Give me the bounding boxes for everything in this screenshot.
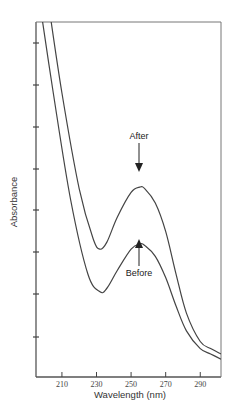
after-label: After (129, 131, 148, 141)
before-annotation: Before (126, 239, 153, 278)
after-curve (48, 1, 221, 354)
x-tick-label: 290 (194, 380, 206, 389)
x-tick-label: 230 (91, 380, 103, 389)
arrow-down-icon (135, 163, 143, 172)
plot-frame (36, 22, 221, 377)
x-tick-label: 270 (160, 380, 172, 389)
x-axis-ticks: 210230250270290 (56, 372, 206, 389)
x-tick-label: 210 (56, 380, 68, 389)
before-label: Before (126, 268, 153, 278)
x-tick-label: 250 (125, 380, 137, 389)
after-annotation: After (129, 131, 148, 172)
y-axis-label: Absorbance (8, 177, 19, 228)
before-curve (39, 1, 221, 360)
absorbance-spectrum-chart: 210230250270290 After Before Wavelength … (0, 0, 234, 413)
x-axis-label: Wavelength (nm) (94, 389, 166, 400)
